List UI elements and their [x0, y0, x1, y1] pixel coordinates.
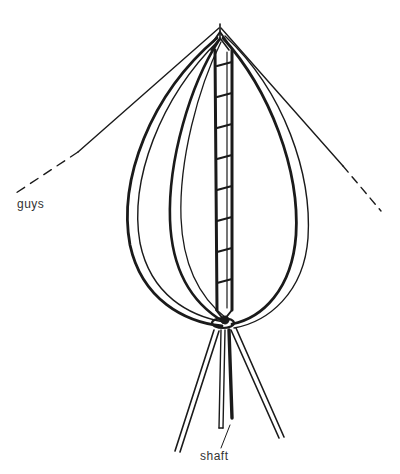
- blade-outer-left: [128, 38, 224, 326]
- guy-wire-left: [16, 28, 219, 193]
- guy-wire-right: [221, 28, 381, 211]
- blade-right: [223, 36, 308, 328]
- darrieus-turbine-diagram: [0, 0, 400, 474]
- support-leg-right: [231, 328, 284, 438]
- label-shaft: shaft: [200, 450, 229, 462]
- support-leg-left: [175, 330, 219, 452]
- shaft: [219, 330, 232, 428]
- label-guys: guys: [17, 198, 44, 210]
- lattice-tower: [215, 50, 232, 320]
